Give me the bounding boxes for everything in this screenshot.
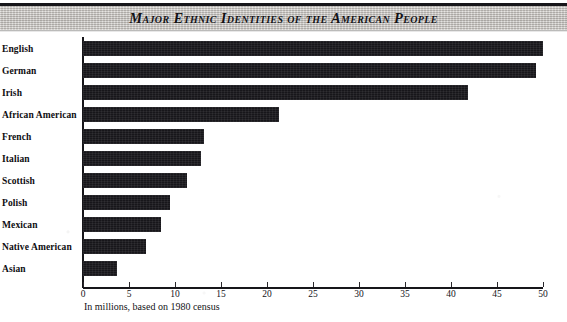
- bar: [83, 261, 117, 276]
- category-label: Native American: [2, 242, 78, 252]
- bar: [83, 63, 536, 78]
- x-axis-tick: [451, 282, 452, 287]
- x-axis-caption: In millions, based on 1980 census: [84, 301, 220, 312]
- x-axis-tick-label: 0: [81, 289, 86, 299]
- bar: [83, 129, 204, 144]
- category-label: English: [2, 44, 78, 54]
- chart-title: Major Ethnic Identities of the American …: [129, 10, 438, 27]
- x-axis-tick: [313, 282, 314, 287]
- x-axis-tick: [83, 282, 84, 287]
- x-axis-tick-label: 40: [446, 289, 456, 299]
- category-label: Polish: [2, 198, 78, 208]
- bar: [83, 41, 543, 56]
- bar: [83, 173, 187, 188]
- banner-drop-shadow: [0, 30, 567, 32]
- category-label: French: [2, 132, 78, 142]
- x-axis-tick-label: 20: [262, 289, 272, 299]
- category-label: Irish: [2, 88, 78, 98]
- x-axis-tick: [497, 282, 498, 287]
- x-axis-tick-label: 15: [216, 289, 226, 299]
- x-axis-tick: [129, 282, 130, 287]
- bar-chart: EnglishGermanIrishAfrican AmericanFrench…: [0, 36, 567, 322]
- x-axis-tick: [405, 282, 406, 287]
- bar: [83, 217, 161, 232]
- x-axis-tick-label: 25: [308, 289, 318, 299]
- category-label: African American: [2, 110, 78, 120]
- x-axis-tick-label: 5: [127, 289, 132, 299]
- category-label: Mexican: [2, 220, 78, 230]
- x-axis-tick-label: 35: [400, 289, 410, 299]
- category-label: Asian: [2, 264, 78, 274]
- category-label: Scottish: [2, 176, 78, 186]
- bar: [83, 239, 146, 254]
- x-axis-tick: [267, 282, 268, 287]
- x-axis-tick: [359, 282, 360, 287]
- category-label: Italian: [2, 154, 78, 164]
- bar: [83, 151, 201, 166]
- bar: [83, 107, 279, 122]
- x-axis-tick-label: 10: [170, 289, 180, 299]
- x-axis-tick: [221, 282, 222, 287]
- x-axis-tick-label: 30: [354, 289, 364, 299]
- title-banner: Major Ethnic Identities of the American …: [0, 6, 567, 30]
- category-label: German: [2, 66, 78, 76]
- x-axis-tick: [175, 282, 176, 287]
- bar: [83, 85, 468, 100]
- x-axis-tick-label: 50: [538, 289, 548, 299]
- x-axis-tick-label: 45: [492, 289, 502, 299]
- bar: [83, 195, 170, 210]
- x-axis-tick: [543, 282, 544, 287]
